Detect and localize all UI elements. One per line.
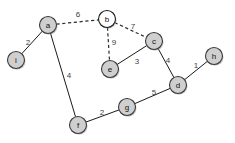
edge-weight-label-a-b: 6 [76,10,81,19]
edge-weight-label-d-h: 1 [194,61,199,70]
graph-node-g[interactable]: g [119,99,137,117]
graph-edge-c-e [117,46,147,65]
node-label-d: d [176,81,180,90]
graph-node-i[interactable]: i [8,52,26,70]
node-label-e: e [108,65,113,74]
graph-node-e[interactable]: e [102,61,120,79]
graph-edge-b-e [108,27,110,60]
graph-canvas: 2647934152 abcdefghi [0,0,235,143]
node-label-c: c [152,37,156,46]
graph-diagram: 2647934152 abcdefghi [0,0,235,143]
graph-node-h[interactable]: h [206,48,224,66]
edge-weight-label-a-f: 4 [67,71,72,80]
nodes-layer: abcdefghi [8,11,224,135]
edge-weight-label-a-i: 2 [26,38,31,47]
graph-node-d[interactable]: d [170,77,188,95]
edge-weight-label-g-f: 2 [100,108,105,117]
graph-node-f[interactable]: f [70,117,88,135]
graph-node-b[interactable]: b [99,11,117,29]
graph-edge-a-f [50,33,75,117]
node-label-g: g [125,103,129,112]
node-label-i: i [15,56,17,65]
node-label-b: b [105,15,110,24]
edge-weight-label-b-e: 9 [112,38,117,47]
node-label-h: h [212,52,216,61]
graph-node-c[interactable]: c [146,33,164,51]
edge-weight-label-b-c: 7 [131,22,136,31]
node-label-a: a [46,21,51,30]
edge-weight-label-c-d: 4 [166,56,171,65]
edge-weight-label-c-e: 3 [135,57,140,66]
graph-edge-a-b [56,20,98,24]
edge-weight-label-d-g: 5 [152,88,157,97]
